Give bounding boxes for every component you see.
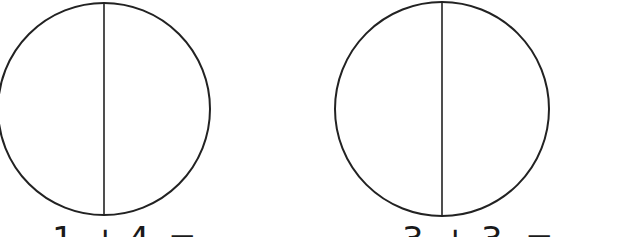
left-equals-sign: = — [168, 222, 197, 237]
left-addend-a: 1 — [52, 222, 74, 237]
right-plus-sign: + — [441, 222, 470, 237]
right-circle-figure — [335, 2, 549, 216]
left-addend-b: 4 — [128, 222, 150, 237]
left-circle — [0, 3, 210, 215]
right-addend-a: 3 — [402, 222, 424, 237]
left-plus-sign: + — [91, 222, 120, 237]
left-circle-figure — [0, 3, 210, 215]
right-addend-b: 3 — [481, 222, 503, 237]
diagram-canvas — [0, 0, 618, 237]
right-equals-sign: = — [525, 222, 554, 237]
